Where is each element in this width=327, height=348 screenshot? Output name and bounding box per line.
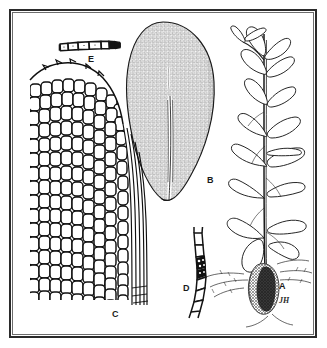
figure-a-habit bbox=[206, 26, 312, 327]
figure-d-filament bbox=[189, 227, 206, 318]
artist-monogram: JH bbox=[279, 296, 289, 305]
figure-label-b: B bbox=[207, 176, 214, 185]
figure-label-c: C bbox=[112, 310, 119, 319]
figure-label-d: D bbox=[183, 284, 190, 293]
figure-e-cell-chain bbox=[60, 41, 120, 51]
illustration-plate: A B C D E JH bbox=[0, 0, 327, 348]
plate-artwork bbox=[0, 0, 327, 348]
figure-label-e: E bbox=[88, 55, 94, 64]
figure-label-a: A bbox=[279, 282, 286, 291]
